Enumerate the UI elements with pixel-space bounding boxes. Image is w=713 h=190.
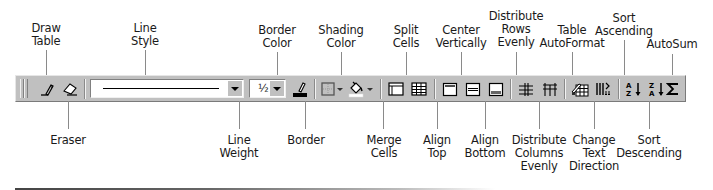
callout-line (68, 101, 69, 129)
border-grid-icon (320, 81, 336, 97)
label-line: Cells (367, 147, 402, 160)
label-change-text-direction: Change Text Direction (569, 134, 619, 173)
label-line: Direction (569, 160, 619, 173)
toolbar-separator (510, 79, 512, 99)
callout-line (649, 101, 650, 129)
center-vertically-button[interactable] (462, 79, 484, 99)
callout-line (437, 101, 438, 129)
label-merge-cells: Merge Cells (367, 134, 402, 160)
label-line-style: Line Style (131, 22, 159, 48)
line-style-preview (103, 88, 219, 89)
distribute-rows-button[interactable] (515, 79, 537, 99)
shading-color-button[interactable] (346, 79, 366, 99)
border-dropdown-button[interactable] (336, 79, 344, 99)
label-line: Color (318, 37, 363, 50)
label-border: Border (287, 134, 324, 147)
svg-text:A: A (626, 82, 632, 90)
label-line: Descending (616, 147, 682, 160)
chevron-down-icon (231, 87, 239, 91)
toolbar-separator (434, 79, 436, 99)
label-line: Vertically (435, 37, 486, 50)
split-cells-icon (411, 82, 427, 96)
center-vertically-icon (465, 82, 481, 97)
eraser-icon (62, 81, 78, 97)
table-autoformat-icon (571, 81, 589, 97)
label-border-color: Border Color (258, 24, 295, 50)
tables-and-borders-toolbar: ½ (15, 75, 686, 102)
distribute-rows-icon (518, 82, 534, 97)
callout-line (485, 101, 486, 129)
label-line: Eraser (50, 134, 86, 147)
callout-line (383, 101, 384, 129)
label-align-top: Align Top (423, 134, 451, 160)
label-line: Evenly (512, 160, 567, 173)
align-bottom-button[interactable] (485, 79, 507, 99)
label-split-cells: Split Cells (393, 24, 420, 50)
merge-cells-button[interactable] (385, 79, 407, 99)
draw-table-button[interactable] (36, 79, 58, 99)
align-top-button[interactable] (439, 79, 461, 99)
text-direction-icon (595, 81, 611, 97)
toolbar-grip[interactable] (24, 79, 28, 98)
chevron-down-icon (337, 88, 343, 91)
bottom-rule-divider (15, 188, 495, 190)
toolbar-separator (618, 79, 620, 99)
change-text-direction-button[interactable] (592, 79, 614, 99)
merge-cells-icon (388, 82, 404, 96)
label-center-vertically: Center Vertically (435, 24, 486, 50)
paint-bucket-icon (347, 80, 365, 98)
label-sort-descending: Sort Descending (616, 134, 682, 160)
toolbar-separator (380, 79, 382, 99)
toolbar-separator (84, 79, 86, 99)
label-line: Weight (220, 147, 259, 160)
label-distribute-rows: Distribute Rows Evenly (489, 10, 544, 49)
callout-line (594, 101, 595, 129)
align-top-icon (442, 82, 458, 97)
line-style-dropdown-button[interactable] (228, 81, 242, 96)
pencil-icon (39, 81, 55, 97)
label-eraser: Eraser (50, 134, 86, 147)
autosum-button[interactable] (662, 79, 684, 99)
sigma-icon (666, 82, 680, 96)
sort-ascending-button[interactable]: A Z (623, 79, 645, 99)
label-distribute-columns: Distribute Columns Evenly (512, 134, 567, 173)
label-align-bottom: Align Bottom (465, 134, 506, 160)
label-line: Top (423, 147, 451, 160)
line-weight-select[interactable]: ½ (249, 79, 286, 98)
svg-text:Z: Z (649, 82, 654, 90)
chevron-down-icon (367, 88, 373, 91)
callout-line (539, 101, 540, 129)
split-cells-button[interactable] (408, 79, 430, 99)
align-bottom-icon (488, 82, 504, 97)
label-line: Table (31, 35, 60, 48)
label-line: AutoFormat (539, 37, 604, 50)
label-line-weight: Line Weight (220, 134, 259, 160)
label-sort-ascending: Sort Ascending (595, 12, 653, 38)
sort-az-icon: A Z (625, 81, 643, 98)
label-line: Style (131, 35, 159, 48)
table-autoformat-button[interactable] (569, 79, 591, 99)
svg-text:A: A (649, 90, 655, 98)
label-line: Cells (393, 37, 420, 50)
distribute-columns-icon (542, 82, 558, 97)
label-line: Border (287, 134, 324, 147)
line-weight-value: ½ (258, 82, 269, 95)
line-style-select[interactable] (90, 79, 244, 98)
label-line: AutoSum (646, 38, 697, 51)
line-weight-dropdown-button[interactable] (270, 81, 284, 96)
eraser-button[interactable] (59, 79, 81, 99)
shading-dropdown-button[interactable] (366, 79, 374, 99)
label-shading-color: Shading Color (318, 24, 363, 50)
distribute-columns-button[interactable] (539, 79, 561, 99)
toolbar-separator (564, 79, 566, 99)
border-color-button[interactable] (289, 79, 311, 99)
border-button[interactable] (318, 79, 337, 99)
border-color-icon (291, 80, 309, 98)
toolbar-separator (314, 79, 316, 99)
label-line: Bottom (465, 147, 506, 160)
chevron-down-icon (273, 87, 281, 91)
svg-text:Z: Z (626, 90, 631, 98)
label-line: Ascending (595, 25, 653, 38)
label-line: Evenly (489, 36, 544, 49)
callout-line (239, 101, 240, 129)
